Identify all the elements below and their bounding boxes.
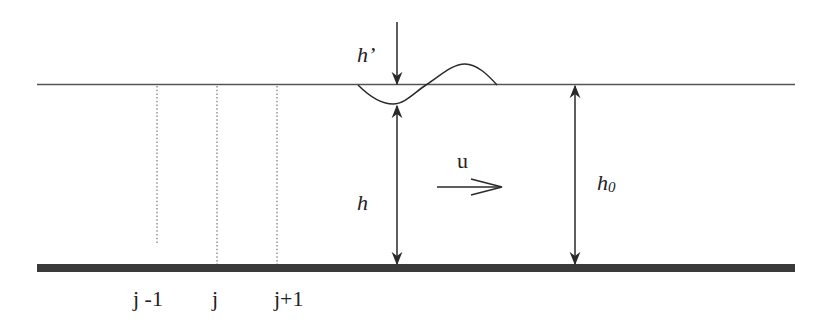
label-h0: h0 bbox=[597, 170, 616, 195]
label-grid-j: j bbox=[211, 286, 218, 311]
label-grid-j-plus-1: j+1 bbox=[273, 286, 304, 311]
label-h0-base: h bbox=[597, 170, 608, 195]
label-h0-subscript: 0 bbox=[608, 179, 616, 195]
label-grid-j-minus-1: j -1 bbox=[132, 286, 163, 311]
label-h-prime: h’ bbox=[357, 42, 375, 67]
label-h: h bbox=[357, 190, 368, 215]
channel-bed bbox=[37, 264, 795, 272]
shallow-water-diagram: h’ h u h0 j -1 j j+1 bbox=[0, 0, 822, 332]
label-u: u bbox=[457, 148, 468, 173]
